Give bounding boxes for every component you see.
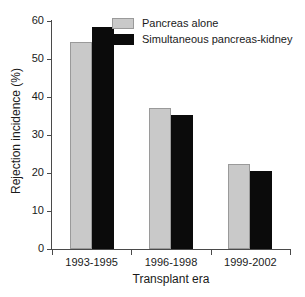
y-axis-tick <box>47 173 51 174</box>
y-axis-tick <box>47 249 51 250</box>
y-axis-tick-label-text: 20 <box>18 167 44 178</box>
x-axis-tick <box>290 250 291 255</box>
x-axis-title: Transplant era <box>52 272 290 286</box>
y-axis-tick-label: 40 <box>18 91 44 102</box>
black-swatch-icon <box>112 34 134 45</box>
y-axis-tick <box>47 59 51 60</box>
legend-item-label: Simultaneous pancreas-kidney <box>142 33 292 45</box>
bar-pancreas-alone-1996-1998 <box>149 108 171 249</box>
y-axis-tick-label-text: 50 <box>18 53 44 64</box>
legend-item-label: Pancreas alone <box>142 17 218 29</box>
bar-chart-figure: Rejection incidence (%) 0102030405060 19… <box>0 0 305 297</box>
y-axis-tick-label: 20 <box>18 167 44 178</box>
x-axis-tick <box>211 250 212 255</box>
y-axis-tick <box>47 211 51 212</box>
y-axis-tick-label-text: 40 <box>18 91 44 102</box>
bar-simultaneous-pancreas-kidney-1993-1995 <box>92 27 114 249</box>
x-axis-category-label: 1993-1995 <box>52 256 131 268</box>
bar-simultaneous-pancreas-kidney-1999-2002 <box>250 171 272 249</box>
y-axis-tick-label: 30 <box>18 129 44 140</box>
y-axis-tick-label-text: 30 <box>18 129 44 140</box>
bar-pancreas-alone-1993-1995 <box>70 42 92 249</box>
y-axis-tick-label: 0 <box>18 243 44 254</box>
x-axis-tick <box>52 250 53 255</box>
y-axis-tick <box>47 135 51 136</box>
legend-item: Simultaneous pancreas-kidney <box>112 32 292 46</box>
bar-simultaneous-pancreas-kidney-1996-1998 <box>171 115 193 249</box>
y-axis-tick-label-text: 10 <box>18 205 44 216</box>
gray-swatch-icon <box>112 18 134 29</box>
y-axis-tick <box>47 21 51 22</box>
y-axis-tick <box>47 97 51 98</box>
y-axis-tick-label-text: 60 <box>18 15 44 26</box>
bar-pancreas-alone-1999-2002 <box>228 164 250 250</box>
x-axis-line <box>51 249 291 250</box>
chart-legend: Pancreas aloneSimultaneous pancreas-kidn… <box>112 16 292 48</box>
y-axis-tick-label: 50 <box>18 53 44 64</box>
legend-item: Pancreas alone <box>112 16 292 30</box>
x-axis-category-label: 1996-1998 <box>131 256 210 268</box>
y-axis-tick-label: 60 <box>18 15 44 26</box>
y-axis-tick-label-text: 0 <box>18 243 44 254</box>
x-axis-tick <box>131 250 132 255</box>
x-axis-category-label: 1999-2002 <box>211 256 290 268</box>
y-axis-tick-label: 10 <box>18 205 44 216</box>
plot-area <box>52 21 290 249</box>
